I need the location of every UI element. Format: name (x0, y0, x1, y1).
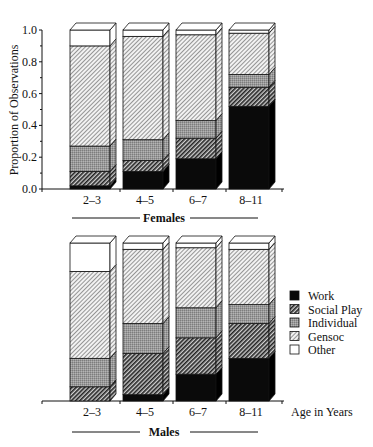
segment-individual (229, 305, 269, 324)
segment-gensoc (176, 248, 216, 308)
legend-item-gensoc: Gensoc (290, 330, 344, 344)
x-category-label: 8–11 (239, 405, 263, 419)
segment-gensoc (176, 35, 216, 121)
segment-individual (70, 146, 110, 171)
legend-item-social-play: Social Play (290, 303, 362, 317)
y-tick-label: 0.6 (22, 87, 37, 101)
segment-other (229, 30, 269, 33)
x-category-label: 8–11 (239, 193, 263, 207)
segment-individual (70, 358, 110, 386)
segment-gensoc (70, 46, 110, 146)
bar-4–5 (123, 236, 169, 401)
segment-social-play (70, 387, 110, 401)
y-tick-label: 0.0 (22, 182, 37, 196)
svg-text:Individual: Individual (308, 316, 358, 330)
bar-2–3 (70, 236, 116, 401)
legend-swatch-icon (290, 318, 299, 327)
segment-other (176, 30, 216, 35)
bar-8–11 (229, 23, 275, 189)
segment-other (229, 243, 269, 249)
bar-2–3 (70, 23, 116, 189)
legend-item-individual: Individual (290, 316, 358, 330)
legend-swatch-icon (290, 332, 299, 341)
males-label: Males (149, 425, 180, 439)
svg-text:Proportion of Observations: Proportion of Observations (7, 44, 21, 175)
segment-other (123, 30, 163, 36)
segment-gensoc (229, 33, 269, 74)
x-category-label: 4–5 (136, 405, 154, 419)
y-tick-label: 0.4 (22, 118, 37, 132)
segment-work (123, 395, 163, 401)
y-tick-label: 0.8 (22, 55, 37, 69)
segment-social-play (229, 87, 269, 106)
segment-social-play (70, 172, 110, 186)
segment-individual (229, 75, 269, 88)
segment-individual (123, 140, 163, 161)
segment-work (176, 374, 216, 401)
segment-gensoc (123, 36, 163, 139)
y-tick-label: 0.2 (22, 150, 37, 164)
x-axis-title: Age in Years (291, 405, 353, 419)
svg-text:Gensoc: Gensoc (308, 330, 344, 344)
x-category-label: 6–7 (189, 193, 207, 207)
segment-social-play (229, 324, 269, 359)
segment-work (70, 186, 110, 189)
stacked-bar-chart-figure: Proportion of Observations 0.00.20.40.60… (0, 0, 373, 447)
legend-swatch-icon (290, 345, 299, 354)
bar-6–7 (176, 236, 222, 401)
legend-swatch-icon (290, 305, 299, 314)
segment-individual (176, 121, 216, 138)
segment-work (229, 358, 269, 401)
legend-item-other: Other (290, 343, 335, 357)
segment-work (123, 172, 163, 189)
segment-individual (176, 308, 216, 338)
x-category-label: 6–7 (189, 405, 207, 419)
bar-6–7 (176, 23, 222, 189)
segment-other (70, 30, 110, 46)
segment-social-play (176, 338, 216, 374)
legend: WorkSocial PlayIndividualGensocOther (290, 289, 362, 357)
svg-text:Work: Work (308, 289, 334, 303)
segment-work (229, 106, 269, 189)
females-label: Females (143, 211, 185, 225)
bar-4–5 (123, 23, 169, 189)
segment-work (176, 159, 216, 189)
segment-gensoc (123, 249, 163, 323)
segment-individual (123, 324, 163, 354)
segment-social-play (123, 354, 163, 395)
svg-text:Other: Other (308, 343, 335, 357)
bar-8–11 (229, 236, 275, 401)
females-panel: 0.00.20.40.60.81.02–34–56–78–11Females (22, 23, 284, 225)
legend-item-work: Work (290, 289, 334, 303)
segment-gensoc (229, 249, 269, 304)
males-panel: 2–34–56–78–11MalesAge in Years (42, 236, 353, 439)
x-category-label: 2–3 (83, 405, 101, 419)
segment-social-play (176, 138, 216, 159)
svg-text:Social Play: Social Play (308, 303, 362, 317)
segment-social-play (123, 160, 163, 171)
legend-swatch-icon (290, 291, 299, 300)
y-tick-label: 1.0 (22, 23, 37, 37)
segment-other (176, 243, 216, 248)
y-axis-title: Proportion of Observations (7, 44, 21, 175)
x-category-label: 4–5 (136, 193, 154, 207)
segment-gensoc (70, 271, 110, 358)
segment-other (70, 243, 110, 271)
x-category-label: 2–3 (83, 193, 101, 207)
segment-other (123, 243, 163, 249)
